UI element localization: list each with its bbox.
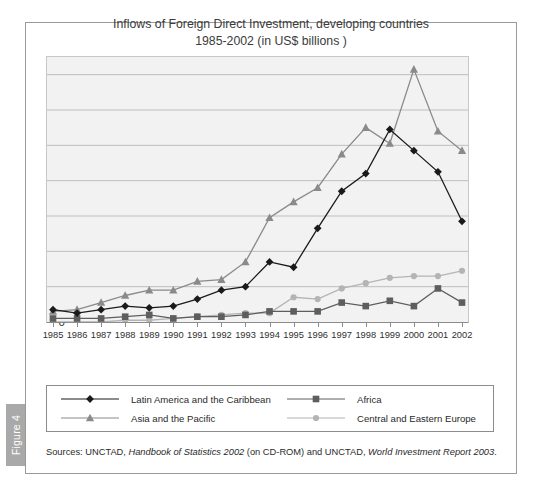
legend-label: Central and Eastern Europe (357, 413, 476, 424)
x-axis-tick-mark (294, 322, 295, 327)
data-point-marker (411, 273, 417, 279)
series-latin-america-and-the-caribbean (49, 126, 466, 318)
x-axis-tick-label: 1998 (355, 330, 376, 340)
legend-label: Africa (357, 394, 382, 405)
x-axis-tick-label: 2001 (428, 330, 449, 340)
x-axis-tick-label: 2000 (404, 330, 425, 340)
x-axis-tick-label: 2002 (452, 330, 473, 340)
data-point-marker (289, 198, 297, 206)
data-point-marker (313, 396, 320, 403)
data-point-marker (410, 65, 418, 73)
data-point-marker (314, 308, 321, 315)
x-axis-tick-label: 1990 (163, 330, 184, 340)
x-axis-tick-label: 1993 (235, 330, 256, 340)
data-point-marker (266, 308, 273, 315)
x-axis-tick-label: 1985 (43, 330, 64, 340)
data-point-marker (290, 308, 297, 315)
chart-title-line-2: 1985-2002 (in US$ billions ) (0, 33, 542, 50)
data-point-marker (169, 302, 177, 310)
x-axis-tick-mark (101, 322, 102, 327)
x-axis-tick-mark (197, 322, 198, 327)
data-point-marker (459, 299, 466, 306)
x-axis-tick-mark (173, 322, 174, 327)
legend-marker-diamond-icon (61, 393, 119, 405)
data-point-marker (193, 295, 201, 303)
x-axis-tick-mark (125, 322, 126, 327)
data-point-marker (386, 139, 394, 147)
data-point-marker (363, 280, 369, 286)
data-point-marker (217, 275, 225, 283)
series-line (53, 271, 462, 322)
chart-title: Inflows of Foreign Direct Investment, de… (0, 16, 542, 50)
x-axis-tick-mark (77, 322, 78, 327)
series-central-and-eastern-europe (50, 268, 465, 322)
data-point-marker (459, 268, 465, 274)
series-line (53, 129, 462, 313)
figure-page: Figure 4 Inflows of Foreign Direct Inves… (0, 0, 542, 489)
x-axis-tick-mark (149, 322, 150, 327)
x-axis-tick-mark (318, 322, 319, 327)
x-axis-tick-label: 1986 (67, 330, 88, 340)
data-point-marker (265, 213, 273, 221)
data-point-marker (218, 313, 225, 320)
sources-prefix: Sources: UNCTAD, (46, 447, 128, 457)
x-axis-tick-mark (53, 322, 54, 327)
legend-item-latin-america-and-the-caribbean[interactable]: Latin America and the Caribbean (61, 393, 271, 405)
legend-marker-square-icon (287, 393, 345, 405)
data-point-marker (434, 127, 442, 135)
data-point-marker (314, 224, 322, 232)
data-point-marker (194, 313, 201, 320)
x-axis-tick-label: 1994 (259, 330, 280, 340)
x-axis-tick-mark (342, 322, 343, 327)
data-point-marker (362, 303, 369, 310)
x-axis-tick-label: 1989 (139, 330, 160, 340)
sources-middle: (on CD-ROM) and UNCTAD, (244, 447, 368, 457)
x-axis-tick-mark (366, 322, 367, 327)
legend-item-africa[interactable]: Africa (287, 393, 382, 405)
x-axis-tick-label: 1988 (115, 330, 136, 340)
sources-publication-2: World Investment Report 2003 (368, 447, 494, 457)
data-point-marker (50, 315, 57, 322)
data-point-marker (435, 273, 441, 279)
x-axis-tick-mark (245, 322, 246, 327)
chart-legend: Latin America and the CaribbeanAfricaAsi… (46, 385, 494, 432)
x-axis-tick-label: 1996 (307, 330, 328, 340)
chart-canvas (47, 57, 468, 322)
data-point-marker (218, 286, 226, 294)
x-axis-tick-label: 1992 (211, 330, 232, 340)
plot-area (46, 56, 469, 323)
x-axis-tick-mark (270, 322, 271, 327)
data-point-marker (122, 313, 129, 320)
figure-number-label: Figure 4 (10, 415, 22, 455)
legend-marker-circle-icon (287, 412, 345, 424)
x-axis-tick-label: 1987 (91, 330, 112, 340)
data-point-marker (290, 263, 298, 271)
legend-item-asia-and-the-pacific[interactable]: Asia and the Pacific (61, 412, 215, 424)
data-point-marker (338, 299, 345, 306)
data-point-marker (86, 395, 94, 403)
legend-item-central-and-eastern-europe[interactable]: Central and Eastern Europe (287, 412, 476, 424)
data-point-marker (435, 285, 442, 292)
data-point-marker (145, 304, 153, 312)
sources-publication-1: Handbook of Statistics 2002 (128, 447, 244, 457)
data-point-marker (339, 285, 345, 291)
data-point-marker (411, 303, 418, 310)
data-point-marker (121, 302, 129, 310)
data-point-marker (362, 123, 370, 131)
data-point-marker (458, 146, 466, 154)
series-africa (50, 285, 466, 322)
data-point-marker (313, 415, 319, 421)
series-line (53, 288, 462, 318)
x-axis-tick-label: 1997 (331, 330, 352, 340)
x-axis-tick-label: 1995 (283, 330, 304, 340)
sources-note: Sources: UNCTAD, Handbook of Statistics … (46, 447, 506, 457)
data-point-marker (387, 298, 394, 305)
data-point-marker (98, 315, 105, 322)
data-point-marker (242, 312, 249, 319)
data-point-marker (170, 315, 177, 322)
data-point-marker (387, 275, 393, 281)
x-axis-tick-mark (221, 322, 222, 327)
data-point-marker (458, 217, 466, 225)
sources-suffix: . (494, 447, 497, 457)
x-axis-tick-mark (390, 322, 391, 327)
